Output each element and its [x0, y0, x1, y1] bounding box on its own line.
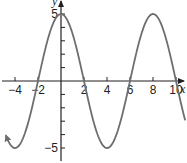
- x-tick-label: 8: [150, 83, 157, 97]
- x-tick-label: −4: [8, 83, 22, 97]
- axes: [2, 1, 184, 161]
- x-tick-label: 4: [104, 83, 111, 97]
- y-tick-label: −5: [44, 141, 58, 155]
- cosine-graph: xy−4−22468105−5: [0, 0, 187, 163]
- x-tick-label: −2: [31, 83, 45, 97]
